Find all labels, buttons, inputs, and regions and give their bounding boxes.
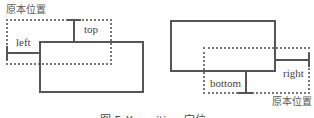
left-offset-line xyxy=(6,52,40,54)
bottom-label: bottom xyxy=(210,78,241,89)
top-label: top xyxy=(84,24,98,35)
left-offset-cap xyxy=(6,46,8,60)
figure-caption: 图 5-X position 定位 xyxy=(100,111,206,118)
right-offset-line xyxy=(275,59,309,61)
original-position-label: 原本位置 xyxy=(272,96,312,107)
bottom-offset-cap xyxy=(238,92,253,94)
bottom-offset-line xyxy=(245,71,247,93)
left-label: left xyxy=(16,37,31,48)
offset-box xyxy=(39,41,144,93)
right-label: right xyxy=(283,68,304,79)
top-offset-line xyxy=(73,19,75,42)
original-position-label: 原本位置 xyxy=(6,4,46,15)
right-offset-cap xyxy=(308,53,310,67)
top-offset-cap xyxy=(67,19,81,21)
